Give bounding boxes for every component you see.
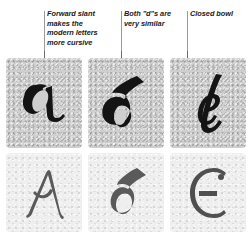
letterform-comparison-figure: Forward slant makes the modern letters m…	[0, 0, 251, 240]
panel-modern-letter-a	[6, 58, 82, 148]
callout-forward-slant: Forward slant makes the modern letters m…	[47, 9, 109, 47]
caption-divider-3	[187, 11, 188, 51]
caption-divider-1	[44, 11, 45, 51]
historic-letter-d-glyph	[88, 153, 164, 232]
panel-modern-letter-d	[88, 58, 164, 148]
callout-closed-bowl: Closed bowl	[190, 9, 248, 19]
panel-historic-letter-d	[88, 153, 164, 232]
panel-modern-letter-e	[170, 58, 246, 148]
callout-both-ds: Both "d"s are very similar	[124, 9, 180, 28]
caption-divider-2	[121, 11, 122, 51]
modern-letter-a-glyph	[6, 58, 82, 148]
modern-letter-d-glyph	[88, 58, 164, 148]
panel-historic-letter-e	[170, 153, 246, 232]
panel-historic-letter-a	[6, 153, 82, 232]
modern-letter-e-glyph	[170, 58, 246, 148]
historic-letter-e-glyph	[170, 153, 246, 232]
historic-letter-a-glyph	[6, 153, 82, 232]
